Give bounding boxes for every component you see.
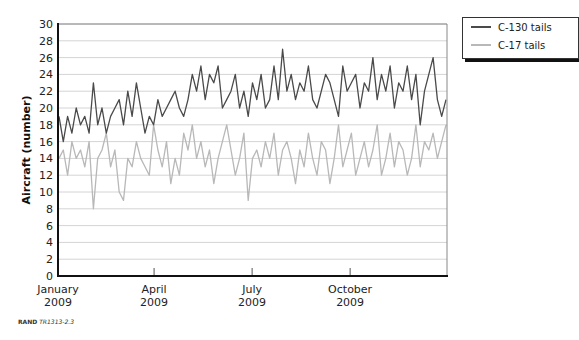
y-tick-label: 24 <box>39 68 53 81</box>
y-axis-ticks: 024681012141618202224262830 <box>39 18 53 283</box>
source-note: RAND TR1313-2.3 <box>18 318 74 325</box>
x-tick-label: October <box>328 283 372 296</box>
legend-label-c130: C-130 tails <box>498 22 552 33</box>
y-tick-label: 26 <box>39 52 53 65</box>
y-tick-label: 2 <box>46 253 53 266</box>
y-tick-label: 20 <box>39 102 53 115</box>
y-axis-label: Aircraft (number) <box>20 96 33 205</box>
source-id: TR1313-2.3 <box>39 318 74 325</box>
y-tick-label: 22 <box>39 85 53 98</box>
y-tick-label: 0 <box>46 270 53 283</box>
x-tick-year: 2009 <box>140 296 168 309</box>
legend-label-c17: C-17 tails <box>498 40 545 51</box>
x-axis-ticks: January2009April2009July2009October2009 <box>36 268 372 309</box>
y-tick-label: 8 <box>46 203 53 216</box>
y-tick-label: 28 <box>39 35 53 48</box>
legend-item-c17: C-17 tails <box>463 36 578 54</box>
legend: C-130 tails C-17 tails <box>462 17 579 59</box>
y-tick-label: 18 <box>39 119 53 132</box>
x-tick-label: July <box>241 283 262 296</box>
legend-swatch-c130 <box>471 26 491 28</box>
y-tick-label: 10 <box>39 186 53 199</box>
y-tick-label: 12 <box>39 169 53 182</box>
y-tick-label: 6 <box>46 220 53 233</box>
legend-swatch-c17 <box>471 44 491 46</box>
y-tick-label: 4 <box>46 236 53 249</box>
y-tick-label: 16 <box>39 136 53 149</box>
x-tick-year: 2009 <box>238 296 266 309</box>
source-org: RAND <box>18 318 37 325</box>
y-tick-label: 14 <box>39 152 53 165</box>
x-tick-label: January <box>36 283 79 296</box>
series-lines <box>59 49 446 209</box>
series-line-c130 <box>59 49 446 141</box>
y-tick-label: 30 <box>39 18 53 31</box>
x-tick-year: 2009 <box>336 296 364 309</box>
legend-item-c130: C-130 tails <box>463 18 578 36</box>
series-line-c17 <box>59 125 446 209</box>
x-tick-label: April <box>142 283 167 296</box>
x-tick-year: 2009 <box>44 296 72 309</box>
